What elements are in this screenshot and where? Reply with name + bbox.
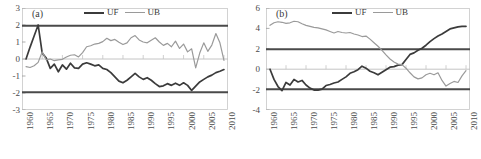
x-tick-label: 1990 bbox=[147, 112, 156, 130]
y-tick-label: 3 bbox=[16, 4, 21, 13]
series-line-uf bbox=[270, 26, 466, 90]
x-tick-label: 1975 bbox=[330, 112, 339, 130]
plot-area-a bbox=[22, 8, 228, 110]
x-tick-label: 1990 bbox=[390, 112, 399, 130]
y-tick-label: -1 bbox=[13, 72, 21, 81]
plot-frame bbox=[267, 9, 470, 110]
x-tick-label: 2005 bbox=[208, 112, 217, 130]
series-line-ub bbox=[26, 34, 224, 68]
y-tick-label: 4 bbox=[256, 24, 261, 33]
y-tick-label: -2 bbox=[13, 89, 21, 98]
x-tick-label: 1980 bbox=[350, 112, 359, 130]
x-tick-label: 1960 bbox=[270, 112, 279, 130]
x-tick-label: 1995 bbox=[167, 112, 176, 130]
x-tick-label: 2010 bbox=[228, 112, 237, 130]
series-line-ub bbox=[270, 21, 466, 86]
x-tick-label: 1985 bbox=[127, 112, 136, 130]
x-axis-labels-a: 1960196519701975198019851990199520002005… bbox=[0, 110, 240, 159]
x-axis-labels-b: 1960196519701975198019851990199520002005… bbox=[240, 110, 481, 159]
x-tick-label: 2000 bbox=[188, 112, 197, 130]
y-tick-label: 0 bbox=[256, 65, 261, 74]
x-tick-label: 1970 bbox=[310, 112, 319, 130]
y-axis-labels-a: 3210-1-2-3 bbox=[0, 0, 22, 112]
x-tick-label: 2000 bbox=[430, 112, 439, 130]
x-tick-label: 1965 bbox=[46, 112, 55, 130]
chart-svg bbox=[22, 8, 228, 110]
mann-kendall-figure: 3210-1-2-3 (a) UF UB 1960196519701975198… bbox=[0, 0, 481, 159]
y-tick-label: 1 bbox=[16, 38, 21, 47]
y-tick-label: 6 bbox=[256, 4, 261, 13]
x-tick-label: 1980 bbox=[107, 112, 116, 130]
x-tick-label: 1970 bbox=[66, 112, 75, 130]
chart-panel-b: 6420-2-4 (b) UF UB 196019651970197519801… bbox=[240, 0, 481, 159]
y-tick-label: -2 bbox=[253, 85, 261, 94]
y-tick-label: 2 bbox=[256, 44, 261, 53]
y-axis-labels-b: 6420-2-4 bbox=[240, 0, 262, 112]
x-tick-label: 1975 bbox=[87, 112, 96, 130]
x-tick-label: 1985 bbox=[370, 112, 379, 130]
x-tick-label: 1965 bbox=[290, 112, 299, 130]
chart-svg bbox=[266, 8, 470, 110]
x-tick-label: 1960 bbox=[26, 112, 35, 130]
x-tick-label: 1995 bbox=[410, 112, 419, 130]
chart-panel-a: 3210-1-2-3 (a) UF UB 1960196519701975198… bbox=[0, 0, 240, 159]
plot-area-b bbox=[266, 8, 470, 110]
x-tick-label: 2010 bbox=[470, 112, 479, 130]
y-tick-label: 0 bbox=[16, 55, 21, 64]
series-line-uf bbox=[26, 25, 224, 90]
x-tick-label: 2005 bbox=[450, 112, 459, 130]
y-tick-label: 2 bbox=[16, 21, 21, 30]
